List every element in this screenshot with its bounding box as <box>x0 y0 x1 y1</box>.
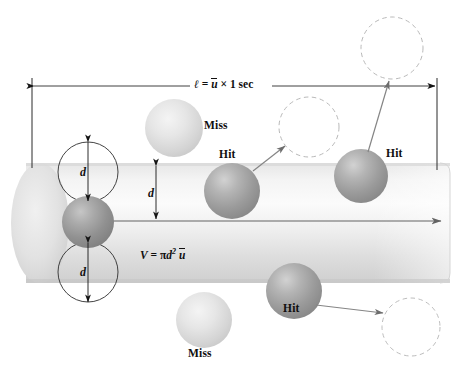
miss-molecule-upper <box>145 99 203 157</box>
figure-canvas <box>0 0 468 373</box>
collision-cylinder-figure: ℓ = u × 1 sec V = πd2 u d d d Miss Hit H… <box>0 0 468 373</box>
mean-speed-symbol: u <box>211 79 217 91</box>
volume-equals: = <box>151 249 158 261</box>
hit-label-left: Hit <box>219 149 236 161</box>
miss-label-upper: Miss <box>204 120 228 132</box>
volume-symbol: V <box>140 249 148 261</box>
diameter-label-middle: d <box>148 187 154 199</box>
dashed-circle-upper-left <box>279 97 339 157</box>
hit-label-right: Hit <box>386 148 403 160</box>
volume-equation-label: V = πd2 u <box>140 248 185 261</box>
diameter-label-top: d <box>80 166 86 178</box>
diameter-label-bottom: d <box>80 266 86 278</box>
cylinder-end-cap <box>11 163 69 283</box>
origin-molecule <box>62 196 114 248</box>
length-equation-label: ℓ = u × 1 sec <box>194 79 253 91</box>
hit-molecule-right <box>334 149 388 203</box>
length-equals: = <box>202 78 209 90</box>
hit-molecule-left <box>204 163 260 219</box>
duration-label: 1 sec <box>230 78 253 90</box>
deflection-arrow-lower <box>316 305 383 313</box>
times-symbol: × <box>221 78 228 90</box>
miss-molecule-lower <box>176 292 232 348</box>
dashed-circle-bottom-right <box>382 298 440 356</box>
cylinder-bottom-edge <box>26 279 450 283</box>
volume-mean-speed-symbol: u <box>179 250 185 262</box>
length-symbol: ℓ <box>194 78 199 90</box>
volume-exponent: 2 <box>172 247 176 256</box>
miss-label-lower: Miss <box>188 348 212 360</box>
deflection-arrow-right <box>368 81 389 152</box>
dashed-circle-top-right <box>361 17 423 79</box>
hit-label-lower: Hit <box>283 303 300 315</box>
